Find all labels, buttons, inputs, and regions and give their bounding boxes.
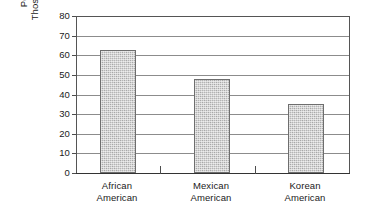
x-category-korean-american: Korean American bbox=[258, 180, 352, 204]
y-axis-title-stack: Percent of Those Surveyed bbox=[18, 0, 41, 20]
y-tick-label-80: 80 bbox=[46, 11, 70, 21]
y-tick-label-30: 30 bbox=[46, 109, 70, 119]
x-axis-separator-tick-1 bbox=[160, 166, 161, 174]
bar-african-american[interactable] bbox=[100, 50, 136, 173]
y-tick-label-40: 40 bbox=[46, 90, 70, 100]
y-tick-label-10: 10 bbox=[46, 148, 70, 158]
x-axis-baseline bbox=[76, 173, 350, 174]
bar-korean-american[interactable] bbox=[288, 104, 324, 173]
x-axis-separator-tick-2 bbox=[255, 166, 256, 174]
x-category-african-american-line-1: African bbox=[70, 180, 164, 192]
x-category-african-american-line-2: American bbox=[70, 192, 164, 204]
bar-mexican-american[interactable] bbox=[194, 79, 230, 173]
x-category-mexican-american-line-1: Mexican bbox=[164, 180, 258, 192]
plot-area bbox=[76, 16, 350, 174]
y-axis-title-line-2: Those Surveyed bbox=[29, 0, 41, 20]
x-category-mexican-american-line-2: American bbox=[164, 192, 258, 204]
x-category-korean-american-line-1: Korean bbox=[258, 180, 352, 192]
gridline-70 bbox=[77, 36, 349, 37]
y-axis-tick-labels: 80 70 60 50 40 30 20 10 0 bbox=[46, 0, 70, 224]
x-axis-category-labels: African American Mexican American Korean… bbox=[76, 180, 350, 214]
y-axis-title-line-1: Percent of bbox=[18, 0, 30, 7]
x-category-korean-american-line-2: American bbox=[258, 192, 352, 204]
y-tick-label-20: 20 bbox=[46, 129, 70, 139]
y-tick-label-50: 50 bbox=[46, 70, 70, 80]
y-tick-label-60: 60 bbox=[46, 50, 70, 60]
x-category-mexican-american: Mexican American bbox=[164, 180, 258, 204]
y-tick-label-70: 70 bbox=[46, 31, 70, 41]
x-category-african-american: African American bbox=[70, 180, 164, 204]
y-tick-label-0: 0 bbox=[46, 168, 70, 178]
y-axis-title: Percent of Those Surveyed bbox=[14, 0, 44, 58]
bar-chart: Percent of Those Surveyed 80 70 60 50 40… bbox=[0, 0, 373, 224]
